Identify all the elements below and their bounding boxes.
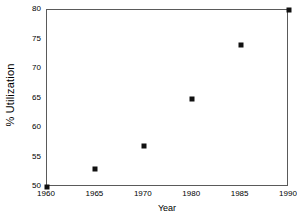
x-tick-label: 1990 <box>279 189 297 198</box>
x-axis-tick-labels: 196019651970198019851990 <box>46 189 288 201</box>
x-tick-label: 1965 <box>85 189 103 198</box>
data-point <box>238 43 243 48</box>
plot-series-layer <box>47 10 287 185</box>
x-tick-label: 1980 <box>182 189 200 198</box>
y-tick-label: 70 <box>32 64 41 72</box>
utilization-scatter-chart: % Utilization 50556065707580 19601965197… <box>0 0 297 219</box>
data-point <box>93 167 98 172</box>
y-tick-label: 65 <box>32 94 41 102</box>
x-tick-label: 1970 <box>134 189 152 198</box>
data-point <box>287 8 292 13</box>
y-tick-label: 75 <box>32 35 41 43</box>
x-tick-label: 1985 <box>231 189 249 198</box>
x-tick-label: 1960 <box>37 189 55 198</box>
y-tick-label: 55 <box>32 153 41 161</box>
data-point <box>190 96 195 101</box>
y-axis-title: % Utilization <box>0 0 20 190</box>
plot-area <box>46 9 288 186</box>
data-point <box>141 143 146 148</box>
y-axis-title-label: % Utilization <box>4 63 16 126</box>
y-tick-label: 80 <box>32 5 41 13</box>
y-tick-label: 60 <box>32 123 41 131</box>
x-axis-title: Year <box>46 203 288 213</box>
y-axis-tick-labels: 50556065707580 <box>18 0 44 190</box>
